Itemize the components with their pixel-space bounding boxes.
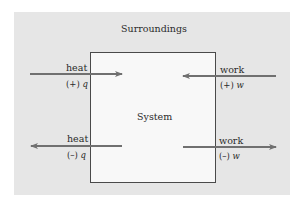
heat-out-label: heat: [67, 134, 88, 144]
work-in-label: work: [220, 65, 244, 75]
heat-in-sign: (+) q: [66, 80, 88, 89]
heat-out-sign: (–) q: [67, 151, 86, 160]
work-out-label: work: [219, 136, 243, 146]
work-out-sign: (–) w: [219, 152, 240, 161]
heat-in-label: heat: [66, 63, 87, 73]
flow-arrows: [0, 0, 304, 202]
work-in-sign: (+) w: [220, 81, 244, 90]
